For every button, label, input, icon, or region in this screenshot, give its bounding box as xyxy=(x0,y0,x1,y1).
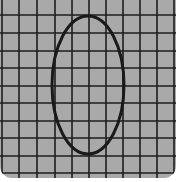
grid-lines xyxy=(0,0,176,178)
grid-drawing xyxy=(0,0,176,178)
hand-drawn-ellipse xyxy=(52,16,124,154)
grid-paper xyxy=(0,0,176,178)
